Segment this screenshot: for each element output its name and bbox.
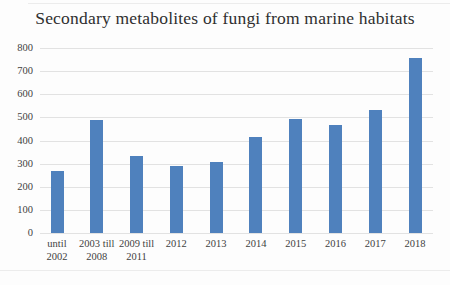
gridline-0: [40, 233, 433, 234]
y-tick-label-800: 800: [5, 43, 33, 54]
gridline-700: [40, 71, 433, 72]
y-tick-label-500: 500: [5, 112, 33, 123]
chart-title: Secondary metabolites of fungi from mari…: [0, 8, 450, 29]
y-tick-label-100: 100: [5, 205, 33, 216]
chart-screenshot: Secondary metabolites of fungi from mari…: [0, 0, 450, 285]
bar-2018: [409, 58, 422, 233]
scan-hairline-top: [28, 3, 450, 4]
bar-2017: [369, 110, 382, 233]
y-tick-label-600: 600: [5, 89, 33, 100]
y-tick-label-700: 700: [5, 66, 33, 77]
y-tick-label-400: 400: [5, 136, 33, 147]
bar-2015: [289, 119, 302, 233]
bar-2014: [249, 137, 262, 233]
y-tick-label-0: 0: [5, 228, 33, 239]
y-tick-label-200: 200: [5, 182, 33, 193]
gridline-600: [40, 94, 433, 95]
bar-2009-till-2011: [130, 156, 143, 233]
bar-until-2002: [51, 171, 64, 233]
plot-area: [40, 48, 433, 233]
bar-2016: [329, 125, 342, 233]
bar-2012: [170, 166, 183, 233]
bar-2013: [210, 162, 223, 233]
x-tick-label-2018: 2018: [391, 238, 439, 251]
bar-2003-till-2008: [90, 120, 103, 233]
y-tick-label-300: 300: [5, 159, 33, 170]
gridline-800: [40, 48, 433, 49]
scan-hairline-bottom: [0, 270, 450, 271]
